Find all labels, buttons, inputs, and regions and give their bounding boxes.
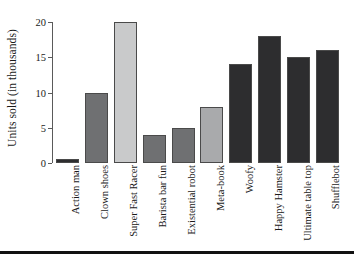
bar <box>316 50 339 163</box>
x-axis-tick-label-slot: Meta-book <box>197 165 226 250</box>
bar <box>85 93 108 164</box>
y-axis-tick-label: 15 <box>36 52 47 63</box>
bar-slot <box>284 22 313 163</box>
bar-slot <box>111 22 140 163</box>
y-axis-tick-label: 5 <box>41 122 46 133</box>
x-axis-tick-label: Ultimate table top <box>303 165 314 241</box>
x-axis-tick-label: Existential robot <box>187 165 198 235</box>
bar-slot <box>53 22 82 163</box>
y-axis-tick-mark <box>48 57 52 58</box>
plot-area: 05101520 <box>52 22 342 163</box>
x-axis-tick-label: Clown shoes <box>100 165 111 219</box>
bar-slot <box>313 22 342 163</box>
bar <box>287 57 310 163</box>
bar-slot <box>255 22 284 163</box>
bar <box>258 36 281 163</box>
x-axis-tick-label: Meta-book <box>216 165 227 211</box>
bar <box>229 64 252 163</box>
bottom-rule-divider <box>0 251 354 254</box>
x-axis-tick-label: Woofy <box>245 165 256 193</box>
y-axis-title: Units sold (in thousands) <box>0 0 24 175</box>
bar-series <box>53 22 342 163</box>
y-axis-tick-label: 0 <box>41 158 46 169</box>
bar-slot <box>82 22 111 163</box>
x-axis-tick-label: Happy Hamster <box>274 165 285 231</box>
x-axis-tick-label: Super Fast Racer <box>129 165 140 237</box>
bar <box>114 22 137 163</box>
y-axis-tick-mark <box>48 163 52 164</box>
bar <box>143 135 166 163</box>
x-axis-tick-label: Shufflebot <box>331 165 342 209</box>
x-axis-tick-label-slot: Ultimate table top <box>284 165 313 250</box>
x-axis-tick-label: Action man <box>71 165 82 214</box>
x-axis-tick-label-slot: Shufflebot <box>313 165 342 250</box>
y-axis-title-text: Units sold (in thousands) <box>6 29 18 147</box>
x-axis-tick-label-slot: Clown shoes <box>82 165 111 250</box>
x-axis-tick-label-slot: Existential robot <box>169 165 198 250</box>
x-axis-tick-labels: Action manClown shoesSuper Fast RacerBar… <box>53 165 343 250</box>
y-axis-tick-label: 20 <box>36 17 47 28</box>
x-axis-tick-label: Barista bar fun <box>158 165 169 227</box>
x-axis-tick-label-slot: Happy Hamster <box>255 165 284 250</box>
bar <box>56 159 79 163</box>
bar-slot <box>226 22 255 163</box>
bar-slot <box>197 22 226 163</box>
x-axis-tick-label-slot: Super Fast Racer <box>111 165 140 250</box>
bar-slot <box>140 22 169 163</box>
y-axis-tick-mark <box>48 128 52 129</box>
x-axis-tick-label-slot: Woofy <box>226 165 255 250</box>
y-axis-tick-mark <box>48 22 52 23</box>
x-axis-tick-label-slot: Barista bar fun <box>140 165 169 250</box>
bar <box>172 128 195 163</box>
bar-slot <box>169 22 198 163</box>
x-axis-tick-label-slot: Action man <box>53 165 82 250</box>
y-axis-tick-label: 10 <box>36 87 47 98</box>
bar-chart-figure: Units sold (in thousands) 05101520 Actio… <box>0 0 354 260</box>
y-axis-tick-mark <box>48 93 52 94</box>
bar <box>200 107 223 163</box>
